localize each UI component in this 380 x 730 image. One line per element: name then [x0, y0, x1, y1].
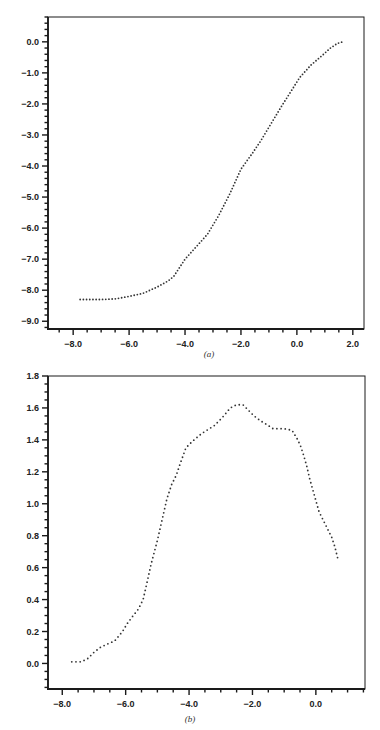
data-point: [147, 577, 149, 579]
data-point: [246, 160, 248, 162]
data-point: [294, 434, 296, 436]
data-point: [222, 416, 224, 418]
data-point: [338, 42, 340, 44]
data-point: [118, 297, 120, 299]
data-point: [212, 224, 214, 226]
data-point: [137, 609, 139, 611]
data-point: [252, 152, 254, 154]
data-point: [178, 267, 180, 269]
data-point: [144, 589, 146, 591]
data-point: [210, 227, 212, 229]
data-point: [293, 87, 295, 89]
data-point: [327, 529, 329, 531]
data-point: [155, 545, 157, 547]
x-tick-label: −8.0: [53, 699, 71, 709]
data-point: [173, 275, 175, 277]
x-tick-label: 0.0: [291, 339, 304, 349]
data-point: [310, 482, 312, 484]
y-tick-label: −7.0: [21, 254, 39, 264]
data-point: [153, 553, 155, 555]
x-tick-label: −6.0: [117, 699, 135, 709]
data-point: [129, 619, 131, 621]
data-point: [183, 452, 185, 454]
y-tick-label: 1.6: [26, 403, 39, 413]
data-point: [143, 594, 145, 596]
data-point: [235, 179, 237, 181]
caption-a: (a): [204, 349, 215, 359]
data-point: [298, 442, 300, 444]
data-point: [168, 492, 170, 494]
data-point: [105, 298, 107, 300]
data-point: [161, 520, 163, 522]
data-point: [225, 412, 227, 414]
data-point: [317, 506, 319, 508]
data-point: [322, 518, 324, 520]
x-tick-label: 2.0: [347, 339, 360, 349]
data-point: [248, 157, 250, 159]
y-tick-label: −5.0: [21, 192, 39, 202]
data-point: [143, 292, 145, 294]
data-point: [163, 282, 165, 284]
data-point: [177, 270, 179, 272]
data-point: [299, 76, 301, 78]
data-point: [248, 410, 250, 412]
data-point: [227, 196, 229, 198]
data-point: [127, 296, 129, 298]
figure-panels: −8.0−6.0−4.0−2.00.02.00.0−1.0−2.0−3.0−4.…: [0, 0, 380, 730]
data-point: [291, 89, 293, 91]
data-point: [221, 208, 223, 210]
data-point: [175, 476, 177, 478]
data-point: [114, 298, 116, 300]
data-point: [288, 429, 290, 431]
data-point: [136, 294, 138, 296]
data-point: [292, 431, 294, 433]
data-point: [146, 291, 148, 293]
data-point: [330, 47, 332, 49]
x-tick-label: −8.0: [64, 339, 82, 349]
data-point: [190, 252, 192, 254]
data-point: [158, 532, 160, 534]
data-point: [307, 470, 309, 472]
data-point: [139, 605, 141, 607]
data-point: [251, 413, 253, 415]
data-point: [75, 661, 77, 663]
x-tick-label: −4.0: [176, 339, 194, 349]
data-point: [223, 205, 225, 207]
data-point: [341, 41, 343, 43]
data-point: [213, 425, 215, 427]
data-point: [92, 299, 94, 301]
data-point: [96, 649, 98, 651]
data-point: [313, 62, 315, 64]
y-tick-label: 0.8: [26, 531, 39, 541]
data-point: [304, 71, 306, 73]
data-point: [277, 111, 279, 113]
data-point: [230, 191, 232, 193]
data-point: [220, 211, 222, 213]
data-point: [201, 240, 203, 242]
data-point: [157, 536, 159, 538]
data-point: [163, 512, 165, 514]
data-point: [300, 445, 302, 447]
data-point: [274, 116, 276, 118]
y-tick-label: 1.0: [26, 499, 39, 509]
data-point: [284, 428, 286, 430]
data-point: [142, 598, 144, 600]
data-point: [320, 514, 322, 516]
data-point: [302, 73, 304, 75]
data-point: [166, 500, 168, 502]
y-tick-label: 0.6: [26, 563, 39, 573]
data-point: [325, 51, 327, 53]
data-point: [316, 502, 318, 504]
data-point: [265, 423, 267, 425]
data-point: [280, 428, 282, 430]
data-point: [268, 425, 270, 427]
data-point: [160, 284, 162, 286]
data-point: [335, 549, 337, 551]
data-point: [205, 235, 207, 237]
data-point: [276, 428, 278, 430]
data-point: [151, 288, 153, 290]
data-point: [259, 141, 261, 143]
data-point: [152, 557, 154, 559]
data-point: [87, 658, 89, 660]
data-point: [192, 249, 194, 251]
